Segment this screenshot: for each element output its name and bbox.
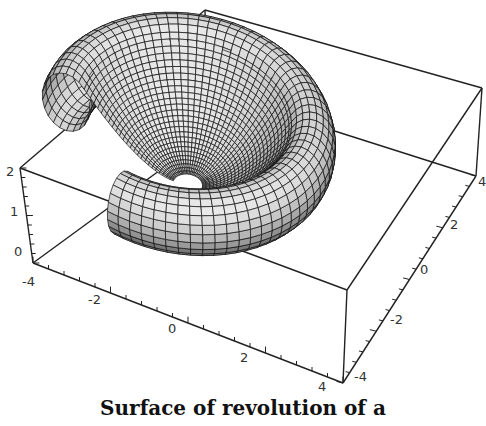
- figure-caption: Surface of revolution of a: [0, 396, 486, 420]
- z-tick-label: 2: [6, 164, 14, 179]
- y-tick-label: 2: [450, 217, 458, 232]
- x-tick-label: 4: [318, 379, 326, 394]
- x-tick-label: 2: [240, 350, 248, 365]
- x-tick-label: -2: [88, 292, 101, 307]
- y-tick-label: -4: [354, 369, 367, 384]
- surface-plot: 2 1 0 -4 -2 0 2 4 -4 -2 0 2 4: [0, 0, 486, 426]
- y-tick-label: -2: [390, 312, 403, 327]
- y-tick-label: 4: [478, 174, 486, 189]
- x-tick-label: 0: [168, 321, 176, 336]
- y-tick-label: 0: [420, 262, 428, 277]
- revolution-surface: [42, 12, 335, 255]
- x-tick-label: -4: [22, 274, 35, 289]
- z-tick-label: 1: [10, 204, 18, 219]
- z-tick-label: 0: [14, 244, 22, 259]
